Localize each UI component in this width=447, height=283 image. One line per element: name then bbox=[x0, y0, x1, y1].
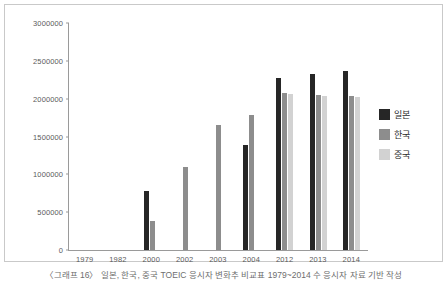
bar bbox=[249, 115, 254, 250]
bar-group bbox=[268, 23, 301, 250]
bar bbox=[355, 97, 360, 250]
legend-label: 중국 bbox=[394, 148, 410, 161]
legend-swatch-icon bbox=[379, 109, 390, 120]
legend-swatch-icon bbox=[379, 129, 390, 140]
x-axis: 197919822000200220032004201220132014 bbox=[68, 253, 368, 269]
bar bbox=[310, 74, 315, 250]
plot-area: 0500000100000015000002000000250000030000… bbox=[68, 23, 368, 251]
bar-group bbox=[302, 23, 335, 250]
legend-swatch-icon bbox=[379, 149, 390, 160]
bar-group bbox=[102, 23, 135, 250]
bar bbox=[243, 145, 248, 250]
x-axis-tick-label: 1982 bbox=[101, 253, 134, 269]
figure-caption: 〈그래프 16〉 일본, 한국, 중국 TOEIC 응시자 변화추 비교표 19… bbox=[0, 269, 447, 283]
x-axis-tick-label: 2004 bbox=[235, 253, 268, 269]
x-axis-tick-label: 2014 bbox=[335, 253, 368, 269]
bar-group bbox=[69, 23, 102, 250]
bar bbox=[322, 96, 327, 250]
bar bbox=[144, 191, 149, 250]
x-axis-tick-label: 2000 bbox=[135, 253, 168, 269]
legend-item: 일본 bbox=[379, 109, 439, 120]
bar bbox=[343, 71, 348, 250]
legend-label: 일본 bbox=[394, 108, 410, 121]
bar-group bbox=[169, 23, 202, 250]
bar bbox=[288, 94, 293, 250]
bar bbox=[276, 78, 281, 250]
legend-item: 중국 bbox=[379, 149, 439, 160]
x-axis-tick-label: 1979 bbox=[68, 253, 101, 269]
y-axis-tick-label: 500000 bbox=[37, 208, 69, 217]
bar bbox=[282, 93, 287, 250]
bar bbox=[183, 167, 188, 250]
legend-label: 한국 bbox=[394, 128, 410, 141]
bar-group bbox=[235, 23, 268, 250]
y-axis-tick-label: 2000000 bbox=[33, 94, 69, 103]
chart-figure: 0500000100000015000002000000250000030000… bbox=[0, 0, 447, 283]
bar-group bbox=[335, 23, 368, 250]
chart-frame: 0500000100000015000002000000250000030000… bbox=[4, 4, 443, 262]
bar-group bbox=[135, 23, 168, 250]
bar bbox=[316, 95, 321, 250]
x-axis-tick-label: 2003 bbox=[201, 253, 234, 269]
y-axis-tick-label: 1000000 bbox=[33, 170, 69, 179]
x-axis-tick-label: 2012 bbox=[268, 253, 301, 269]
legend-item: 한국 bbox=[379, 129, 439, 140]
bar bbox=[150, 221, 155, 251]
x-axis-tick-label: 2013 bbox=[301, 253, 334, 269]
x-axis-tick-label: 2002 bbox=[168, 253, 201, 269]
bar bbox=[216, 125, 221, 250]
legend: 일본한국중국 bbox=[379, 109, 439, 169]
bar bbox=[349, 96, 354, 250]
bar-series-container bbox=[69, 23, 368, 250]
y-axis-tick-label: 3000000 bbox=[33, 19, 69, 28]
bar-group bbox=[202, 23, 235, 250]
y-axis-tick-label: 1500000 bbox=[33, 132, 69, 141]
y-axis-tick-label: 2500000 bbox=[33, 56, 69, 65]
